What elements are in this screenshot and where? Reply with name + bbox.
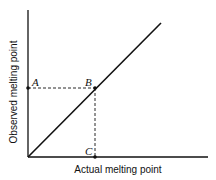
label-a: A bbox=[31, 76, 39, 88]
y-axis-label: Observed melting point bbox=[8, 40, 19, 143]
point-c bbox=[93, 155, 97, 159]
label-b: B bbox=[85, 76, 92, 88]
point-b bbox=[93, 86, 97, 90]
x-axis-label: Actual melting point bbox=[74, 164, 161, 175]
diagonal-line bbox=[28, 23, 161, 157]
label-c: C bbox=[85, 145, 93, 157]
point-a bbox=[26, 86, 30, 90]
melting-point-diagram: A B C Actual melting point Observed melt… bbox=[0, 0, 216, 180]
